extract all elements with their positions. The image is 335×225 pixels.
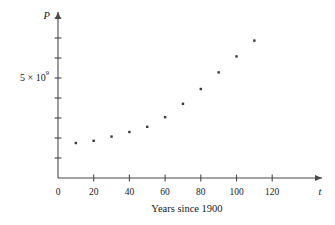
data-point xyxy=(200,88,202,90)
data-point xyxy=(75,142,77,144)
axes-group xyxy=(55,12,322,181)
data-point xyxy=(164,116,166,118)
x-axis-variable-label: t xyxy=(319,186,323,197)
ticks-group: 0204060801001205 × 109 xyxy=(20,18,280,197)
x-tick-label: 40 xyxy=(125,187,135,197)
data-point xyxy=(110,135,112,137)
data-point xyxy=(235,55,237,57)
data-point xyxy=(182,103,184,105)
y-tick-label-5e9: 5 × 109 xyxy=(20,69,50,84)
data-point xyxy=(217,71,219,73)
x-tick-label: 20 xyxy=(89,187,99,197)
x-axis-arrow-icon xyxy=(315,175,322,181)
data-point xyxy=(128,131,130,133)
x-tick-label: 100 xyxy=(229,187,244,197)
x-tick-label: 120 xyxy=(265,187,280,197)
y-axis-variable-label: P xyxy=(43,10,51,21)
data-point xyxy=(146,126,148,128)
data-points-group xyxy=(75,39,256,144)
data-point xyxy=(93,140,95,142)
x-tick-label: 60 xyxy=(160,187,170,197)
population-scatter-figure: 0204060801001205 × 109 PtYears since 190… xyxy=(0,0,335,225)
x-axis-caption: Years since 1900 xyxy=(151,203,222,214)
x-tick-label: 0 xyxy=(56,187,61,197)
x-tick-label: 80 xyxy=(196,187,206,197)
plot-canvas: 0204060801001205 × 109 PtYears since 190… xyxy=(0,0,335,225)
data-point xyxy=(253,39,255,41)
axis-labels-group: PtYears since 1900 xyxy=(43,10,323,214)
